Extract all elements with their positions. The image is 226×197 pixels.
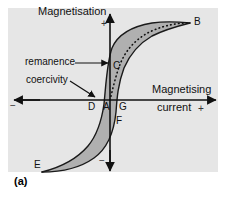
x-axis-positive-sign: + <box>198 104 204 114</box>
y-axis-positive-sign: + <box>101 19 107 29</box>
x-axis-title-line2: current <box>157 102 191 113</box>
point-label-F: F <box>116 116 122 126</box>
remanence-annotation: remanence <box>25 57 75 67</box>
point-label-G: G <box>119 102 127 112</box>
point-label-D: D <box>88 102 95 112</box>
point-label-B: B <box>194 17 201 27</box>
hysteresis-figure: Magnetisation + − Magnetising current + … <box>0 0 226 197</box>
point-label-E: E <box>34 160 41 170</box>
y-axis-title: Magnetisation <box>38 6 107 17</box>
point-label-A: A <box>103 102 110 112</box>
coercivity-leader-line <box>70 81 95 97</box>
coercivity-annotation: coercivity <box>26 75 68 85</box>
x-axis-negative-sign: − <box>10 101 16 111</box>
hysteresis-loop-fill <box>42 22 190 172</box>
x-axis-title-line1: Magnetising <box>152 84 211 95</box>
point-label-C: C <box>113 61 120 71</box>
y-axis-negative-sign: − <box>99 156 105 166</box>
figure-caption: (a) <box>14 175 27 187</box>
